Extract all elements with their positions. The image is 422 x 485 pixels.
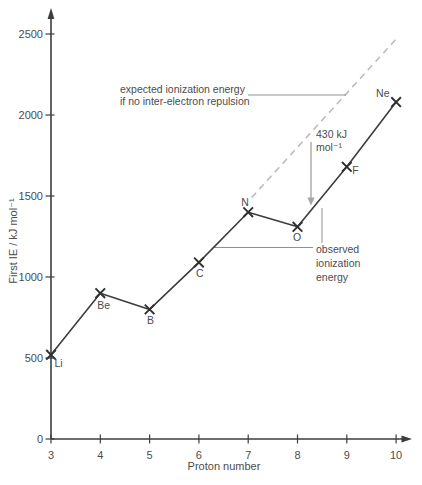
difference-annotation: 430 kJ mol⁻¹ xyxy=(316,128,347,153)
y-tick-label: 2000 xyxy=(19,109,43,121)
x-tick-label: 5 xyxy=(147,449,153,461)
x-tick-label: 3 xyxy=(48,449,54,461)
point-label-Be: Be xyxy=(97,299,110,311)
point-label-O: O xyxy=(293,231,301,243)
x-tick-label: 7 xyxy=(245,449,251,461)
observed-annotation-line-3: energy xyxy=(316,270,360,284)
ionization-energy-figure: 05001000150020002500345678910LiBeBCNOFNe… xyxy=(0,0,422,485)
x-tick-label: 10 xyxy=(390,449,402,461)
y-tick-label: 1000 xyxy=(19,271,43,283)
x-tick-label: 4 xyxy=(97,449,103,461)
expected-annotation-line-2: if no inter-electron repulsion xyxy=(120,96,250,108)
x-tick-label: 6 xyxy=(196,449,202,461)
y-tick-label: 2500 xyxy=(19,28,43,40)
point-label-F: F xyxy=(352,164,358,176)
difference-arrowhead-icon xyxy=(307,198,314,206)
point-label-N: N xyxy=(241,196,249,208)
point-label-C: C xyxy=(196,267,204,279)
expected-dashed-line xyxy=(252,38,397,198)
observed-annotation-line-2: ionization xyxy=(316,256,360,270)
point-label-B: B xyxy=(147,314,154,326)
y-tick-label: 0 xyxy=(37,433,43,445)
observed-annotation-line-1: observed xyxy=(316,242,360,256)
observed-annotation: observed ionization energy xyxy=(316,242,360,285)
difference-annotation-line-1: 430 kJ xyxy=(316,128,347,141)
y-tick-label: 1500 xyxy=(19,190,43,202)
expected-annotation: expected ionization energy if no inter-e… xyxy=(120,84,250,107)
x-axis-title: Proton number xyxy=(188,461,261,473)
point-label-Li: Li xyxy=(55,357,63,369)
x-tick-label: 8 xyxy=(294,449,300,461)
expected-annotation-line-1: expected ionization energy xyxy=(120,84,250,96)
y-tick-label: 500 xyxy=(25,352,43,364)
y-axis-title: First IE / kJ mol⁻¹ xyxy=(8,198,20,283)
point-label-Ne: Ne xyxy=(376,87,390,99)
difference-annotation-line-2: mol⁻¹ xyxy=(316,141,347,154)
y-axis-arrow-icon xyxy=(48,8,55,19)
x-axis-arrow-icon xyxy=(402,436,413,443)
x-tick-label: 9 xyxy=(344,449,350,461)
